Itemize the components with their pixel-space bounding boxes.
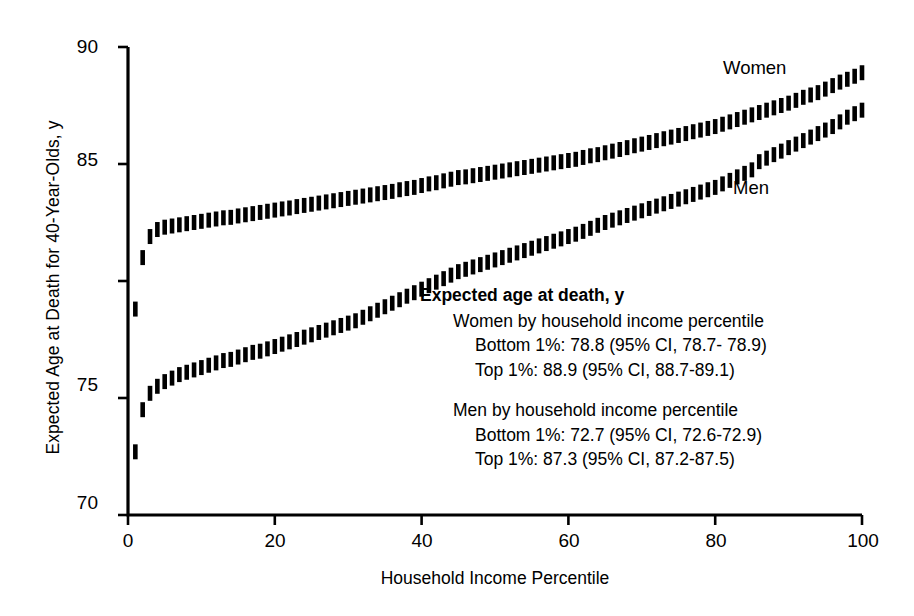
annotation-men-bottom: Bottom 1%: 72.7 (95% CI, 72.6-72.9)	[420, 423, 767, 448]
x-tick-label-80: 80	[686, 530, 746, 552]
x-tick-label-0: 0	[98, 530, 158, 552]
y-tick-label-90: 90	[52, 36, 98, 58]
x-axis-label: Household Income Percentile	[128, 568, 862, 589]
annotation-block: Expected age at death, y Women by househ…	[420, 283, 767, 472]
annotation-title: Expected age at death, y	[420, 283, 767, 308]
annotation-men-header: Men by household income percentile	[420, 398, 767, 423]
x-tick-label-40: 40	[392, 530, 452, 552]
y-tick-label-85: 85	[52, 149, 98, 171]
series-label-men: Men	[733, 177, 769, 199]
figure-expected-age-at-death-chart: Expected Age at Death for 40-Year-Olds, …	[0, 0, 914, 616]
series-label-women: Women	[723, 57, 786, 79]
x-tick-label-60: 60	[539, 530, 599, 552]
y-tick-label-70: 70	[52, 492, 98, 514]
annotation-women-top: Top 1%: 88.9 (95% CI, 88.7-89.1)	[420, 358, 767, 383]
y-tick-label-75: 75	[52, 374, 98, 396]
annotation-spacer	[420, 382, 767, 398]
annotation-women-bottom: Bottom 1%: 78.8 (95% CI, 78.7- 78.9)	[420, 333, 767, 358]
annotation-men-top: Top 1%: 87.3 (95% CI, 87.2-87.5)	[420, 447, 767, 472]
annotation-women-header: Women by household income percentile	[420, 309, 767, 334]
x-tick-label-20: 20	[245, 530, 305, 552]
x-tick-label-100: 100	[833, 530, 893, 552]
